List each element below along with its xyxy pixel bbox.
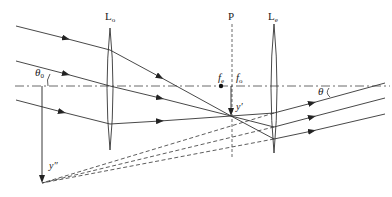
input-angle-label: θ0 bbox=[35, 66, 44, 80]
converging-rays bbox=[110, 50, 274, 139]
diagram-canvas bbox=[0, 0, 392, 197]
telescope-ray-diagram: Lo Le P fe fo θ0 θ y′ y″ bbox=[0, 0, 392, 197]
objective-lens-label: Lo bbox=[105, 10, 115, 24]
objective-focus-label: fo bbox=[236, 71, 243, 85]
intermediate-image-label: y′ bbox=[236, 101, 243, 112]
emerging-rays bbox=[274, 83, 385, 139]
output-angle-label: θ bbox=[318, 85, 323, 97]
eyepiece-lens-label: Le bbox=[268, 10, 278, 24]
incoming-rays bbox=[16, 26, 110, 124]
objective-lens bbox=[107, 28, 113, 150]
image-plane-label: P bbox=[228, 10, 234, 22]
virtual-rays bbox=[42, 113, 274, 183]
eyepiece-focus-label: fe bbox=[218, 71, 224, 85]
final-image-label: y″ bbox=[49, 160, 58, 171]
input-angle-arc bbox=[47, 74, 50, 86]
eyepiece-lens bbox=[271, 24, 277, 153]
output-angle-arc bbox=[327, 88, 330, 97]
